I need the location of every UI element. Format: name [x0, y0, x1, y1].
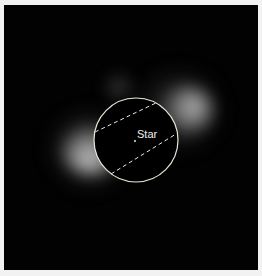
star-dot: [134, 140, 136, 142]
figure-frame: Star: [0, 0, 262, 276]
star-label: Star: [137, 128, 157, 140]
occulting-mask-overlay: [0, 0, 262, 276]
